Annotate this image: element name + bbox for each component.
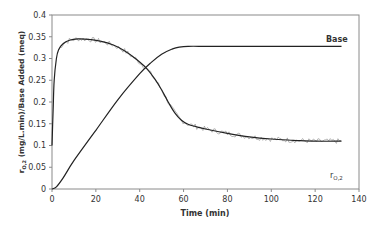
y-tick-label: 0.35 [28,33,46,42]
x-axis-title: Time (min) [181,209,230,218]
x-tick-label: 60 [178,195,188,204]
y-tick-label: 0.2 [33,98,46,107]
x-tick-label: 140 [351,195,366,204]
y-tick-label: 0.3 [33,54,46,63]
x-axis: 020406080100120140 [49,189,366,204]
y-tick-label: 0 [41,185,46,194]
series-label-r02: rO,2 [330,171,343,181]
x-tick-label: 0 [49,195,54,204]
x-tick-label: 20 [91,195,101,204]
y-tick-label: 0.25 [28,76,46,85]
series-base-line [52,46,342,189]
x-tick-label: 120 [308,195,323,204]
x-tick-label: 100 [264,195,279,204]
y-tick-label: 0.1 [33,141,46,150]
series-label-base: Base [326,35,348,44]
x-tick-label: 80 [222,195,232,204]
y-tick-label: 0.05 [28,163,46,172]
line-chart: 00.050.10.150.20.250.30.350.4 0204060801… [0,0,384,229]
y-tick-label: 0.4 [33,11,46,20]
y-axis-title: rO,2 (mg/L.min)/Base Added (meq) [17,31,27,173]
x-tick-label: 40 [135,195,145,204]
y-axis: 00.050.10.150.20.250.30.350.4 [28,11,52,194]
y-tick-label: 0.15 [28,120,46,129]
